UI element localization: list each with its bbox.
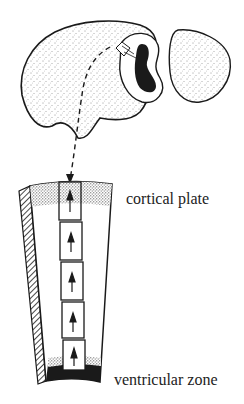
brain-lobe-right <box>169 30 230 102</box>
cortical-plate-label: cortical plate <box>126 191 209 207</box>
ventricular-zone-label: ventricular zone <box>114 372 218 388</box>
figure: cortical plate ventricular zone <box>0 0 244 404</box>
cortical-column <box>19 181 112 384</box>
